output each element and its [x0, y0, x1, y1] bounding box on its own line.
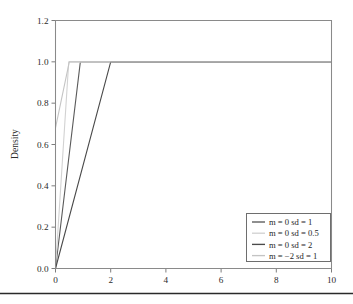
legend: m = 0 sd = 1m = 0 sd = 0.5m = 0 sd = 2m …: [247, 214, 331, 262]
x-tick-label: 0: [53, 275, 58, 285]
density-cdf-chart: Density 0.00.20.40.60.81.01.2 0246810 m …: [0, 0, 353, 304]
x-tick-label: 2: [108, 275, 113, 285]
legend-label: m = 0 sd = 2: [269, 240, 312, 250]
y-tick-label: 1.2: [37, 16, 49, 26]
x-axis-tick-group: 0246810: [53, 269, 336, 285]
legend-label: m = 0 sd = 1: [269, 217, 312, 227]
figure-canvas: Density 0.00.20.40.60.81.01.2 0246810 m …: [0, 0, 353, 304]
y-tick-label: 0.4: [37, 181, 49, 191]
legend-label: m = −2 sd = 1: [269, 251, 317, 261]
y-tick-label: 0.0: [37, 264, 49, 274]
y-axis-title: Density: [9, 129, 20, 159]
x-tick-label: 10: [327, 275, 337, 285]
y-tick-label: 0.8: [37, 98, 49, 108]
x-tick-label: 8: [274, 275, 279, 285]
x-tick-label: 6: [219, 275, 224, 285]
y-axis-tick-group: 0.00.20.40.60.81.01.2: [37, 16, 55, 274]
y-tick-label: 1.0: [37, 57, 49, 67]
y-tick-label: 0.6: [37, 140, 49, 150]
x-tick-label: 4: [164, 275, 169, 285]
y-tick-label: 0.2: [37, 222, 49, 232]
legend-label: m = 0 sd = 0.5: [269, 228, 319, 238]
